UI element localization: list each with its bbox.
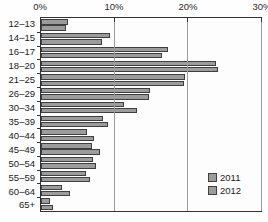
y-axis-tick bbox=[37, 73, 41, 74]
bar-2011 bbox=[41, 61, 216, 66]
bar-2012 bbox=[41, 25, 66, 30]
y-axis-tick bbox=[37, 170, 41, 171]
y-axis-tick bbox=[37, 59, 41, 60]
bar-2011 bbox=[41, 102, 124, 107]
bar-group bbox=[41, 18, 262, 32]
bar-group bbox=[41, 128, 262, 142]
y-axis-tick bbox=[37, 101, 41, 102]
bar-2011 bbox=[41, 157, 93, 162]
y-category-label: 55–59 bbox=[0, 170, 37, 184]
x-axis-tick-labels: 0%10%20%30% bbox=[40, 1, 262, 14]
x-axis-tick bbox=[187, 18, 188, 22]
bar-2011 bbox=[41, 143, 92, 148]
bar-2012 bbox=[41, 53, 162, 58]
bar-group bbox=[41, 156, 262, 170]
bar-2012 bbox=[41, 94, 149, 99]
y-category-label: 18–20 bbox=[0, 59, 37, 73]
legend-label-2011: 2011 bbox=[220, 172, 240, 183]
x-tick-label: 0% bbox=[33, 1, 47, 12]
bar-2012 bbox=[41, 122, 108, 127]
y-category-label: 12–13 bbox=[0, 17, 37, 31]
gridline bbox=[187, 18, 188, 211]
legend-entry-2012: 2012 bbox=[208, 184, 241, 196]
bar-2011 bbox=[41, 185, 62, 190]
y-category-label: 30–34 bbox=[0, 101, 37, 115]
y-category-label: 65+ bbox=[0, 198, 37, 212]
age-distribution-bar-chart: 0%10%20%30% 12–1314–1516–1718–2021–2526–… bbox=[0, 0, 268, 222]
bar-group bbox=[41, 59, 262, 73]
y-category-label: 60–64 bbox=[0, 184, 37, 198]
y-category-label: 26–29 bbox=[0, 87, 37, 101]
y-axis-tick bbox=[37, 87, 41, 88]
bar-group bbox=[41, 87, 262, 101]
bar-2012 bbox=[41, 39, 102, 44]
legend-entry-2011: 2011 bbox=[208, 171, 241, 183]
legend-swatch-2011 bbox=[208, 173, 217, 182]
x-tick-label: 20% bbox=[178, 1, 197, 12]
bar-2011 bbox=[41, 19, 68, 24]
y-category-label: 21–25 bbox=[0, 73, 37, 87]
bar-group bbox=[41, 142, 262, 156]
bar-2012 bbox=[41, 136, 94, 141]
bar-2012 bbox=[41, 163, 96, 168]
bar-group bbox=[41, 32, 262, 46]
y-axis-category-labels: 12–1314–1516–1718–2021–2526–2930–3435–39… bbox=[0, 17, 37, 212]
y-axis-tick bbox=[37, 115, 41, 116]
y-axis-tick bbox=[37, 32, 41, 33]
bar-2011 bbox=[41, 47, 168, 52]
bar-group bbox=[41, 101, 262, 115]
bar-2011 bbox=[41, 171, 86, 176]
bar-group bbox=[41, 73, 262, 87]
y-axis-tick bbox=[37, 156, 41, 157]
bar-2012 bbox=[41, 177, 90, 182]
bar-2011 bbox=[41, 129, 87, 134]
bar-2011 bbox=[41, 33, 110, 38]
bar-2012 bbox=[41, 191, 70, 196]
y-category-label: 40–44 bbox=[0, 128, 37, 142]
bar-2012 bbox=[41, 205, 53, 210]
y-axis-tick bbox=[37, 197, 41, 198]
bar-group bbox=[41, 197, 262, 211]
y-category-label: 16–17 bbox=[0, 45, 37, 59]
y-category-label: 35–39 bbox=[0, 114, 37, 128]
bar-2011 bbox=[41, 116, 103, 121]
bar-2012 bbox=[41, 81, 184, 86]
x-axis-tick bbox=[261, 18, 262, 22]
legend-swatch-2012 bbox=[208, 186, 217, 195]
x-axis-tick bbox=[114, 18, 115, 22]
bar-2011 bbox=[41, 198, 50, 203]
bar-group bbox=[41, 114, 262, 128]
y-axis-tick bbox=[37, 128, 41, 129]
gridline bbox=[261, 18, 262, 211]
legend: 2011 2012 bbox=[208, 171, 241, 197]
x-tick-label: 30% bbox=[252, 1, 268, 12]
y-axis-tick bbox=[37, 142, 41, 143]
y-axis-tick bbox=[37, 183, 41, 184]
y-category-label: 45–49 bbox=[0, 142, 37, 156]
gridline bbox=[114, 18, 115, 211]
x-tick-label: 10% bbox=[104, 1, 123, 12]
bar-group bbox=[41, 46, 262, 60]
legend-label-2012: 2012 bbox=[220, 185, 241, 196]
bar-2012 bbox=[41, 149, 100, 154]
bar-2012 bbox=[41, 67, 218, 72]
bar-2011 bbox=[41, 88, 150, 93]
bar-2012 bbox=[41, 108, 137, 113]
y-category-label: 50–54 bbox=[0, 156, 37, 170]
y-category-label: 14–15 bbox=[0, 31, 37, 45]
y-axis-tick bbox=[37, 46, 41, 47]
